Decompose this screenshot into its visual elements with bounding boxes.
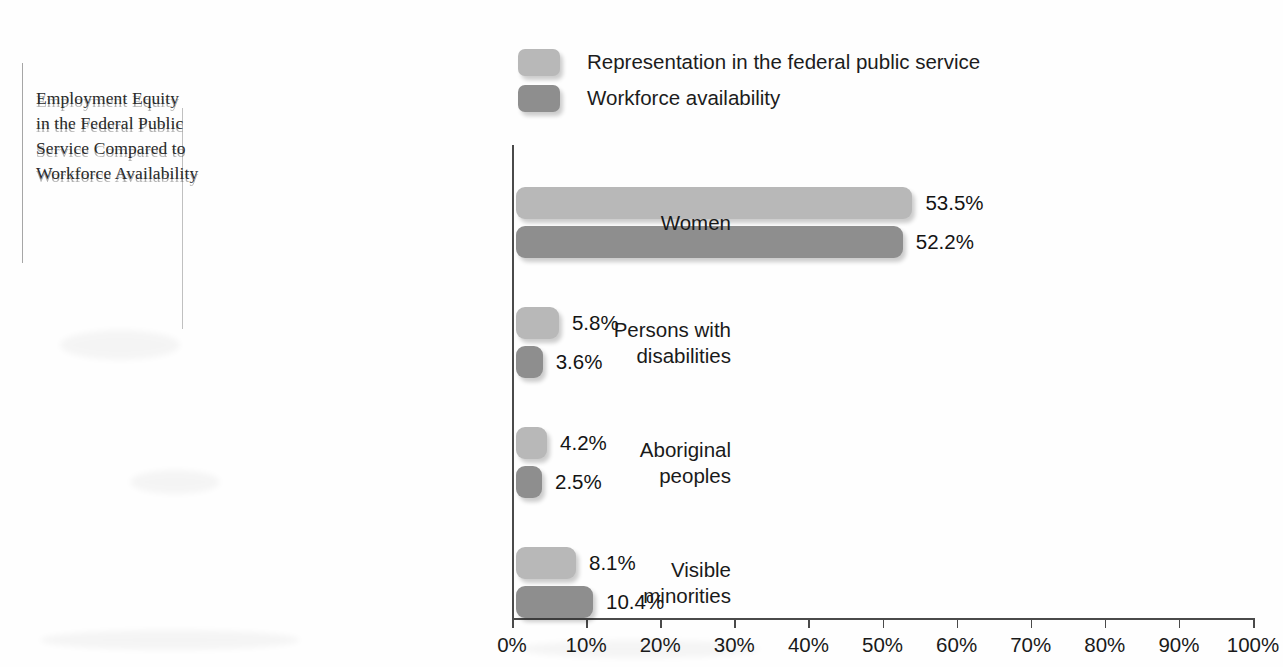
x-axis-tick: [512, 618, 514, 628]
category-label: Aboriginalpeoples: [491, 437, 731, 489]
page-margin-rule: [22, 63, 23, 263]
scan-smudge: [130, 470, 220, 494]
category-label: Women: [491, 210, 731, 236]
x-axis-tick-label: 30%: [714, 633, 755, 657]
category-label-line: disabilities: [491, 343, 731, 369]
chart-title-line: in the Federal Public: [36, 111, 226, 136]
scan-smudge: [60, 330, 180, 360]
x-axis-tick: [660, 618, 662, 628]
x-axis-tick-label: 10%: [566, 633, 607, 657]
x-axis-tick: [1179, 618, 1181, 628]
legend-item[interactable]: Workforce availability: [518, 80, 980, 116]
legend-swatch-icon: [518, 85, 560, 112]
x-axis-tick-label: 70%: [1010, 633, 1051, 657]
category-label-line: peoples: [491, 463, 731, 489]
scan-smudge: [40, 630, 300, 650]
x-axis-tick-label: 0%: [497, 633, 527, 657]
x-axis-tick: [586, 618, 588, 628]
chart-plot-area: 0%10%20%30%40%50%60%70%80%90%100%53.5%52…: [512, 145, 1253, 618]
x-axis-tick-label: 90%: [1158, 633, 1199, 657]
category-label: Persons withdisabilities: [491, 317, 731, 369]
x-axis-tick-label: 80%: [1084, 633, 1125, 657]
x-axis-tick: [734, 618, 736, 628]
x-axis-tick: [1105, 618, 1107, 628]
x-axis-tick-label: 100%: [1227, 633, 1279, 657]
chart-legend: Representation in the federal public ser…: [518, 44, 980, 116]
chart-title-line: Service Compared to: [36, 136, 226, 161]
category-label-line: Aboriginal: [491, 437, 731, 463]
category-label-line: Visible: [491, 557, 731, 583]
category-label-line: Women: [491, 210, 731, 236]
chart-title-line: Employment Equity: [36, 86, 226, 111]
x-axis-tick: [883, 618, 885, 628]
category-label-line: minorities: [491, 583, 731, 609]
legend-item-label: Representation in the federal public ser…: [587, 50, 980, 74]
x-axis-tick-label: 60%: [936, 633, 977, 657]
bar-value-label: 53.5%: [925, 187, 983, 219]
category-label-line: Persons with: [491, 317, 731, 343]
chart-title-line: Workforce Availability: [36, 161, 226, 186]
bar-value-label: 52.2%: [916, 226, 974, 258]
legend-item-label: Workforce availability: [587, 86, 780, 110]
x-axis-tick: [1253, 618, 1255, 628]
legend-item[interactable]: Representation in the federal public ser…: [518, 44, 980, 80]
x-axis-tick-label: 40%: [788, 633, 829, 657]
category-label: Visibleminorities: [491, 557, 731, 609]
legend-swatch-icon: [518, 49, 560, 76]
x-axis-tick: [808, 618, 810, 628]
x-axis-tick: [1031, 618, 1033, 628]
x-axis-tick-label: 20%: [640, 633, 681, 657]
x-axis-tick-label: 50%: [862, 633, 903, 657]
x-axis-tick: [957, 618, 959, 628]
chart-title: Employment Equityin the Federal PublicSe…: [36, 86, 226, 186]
